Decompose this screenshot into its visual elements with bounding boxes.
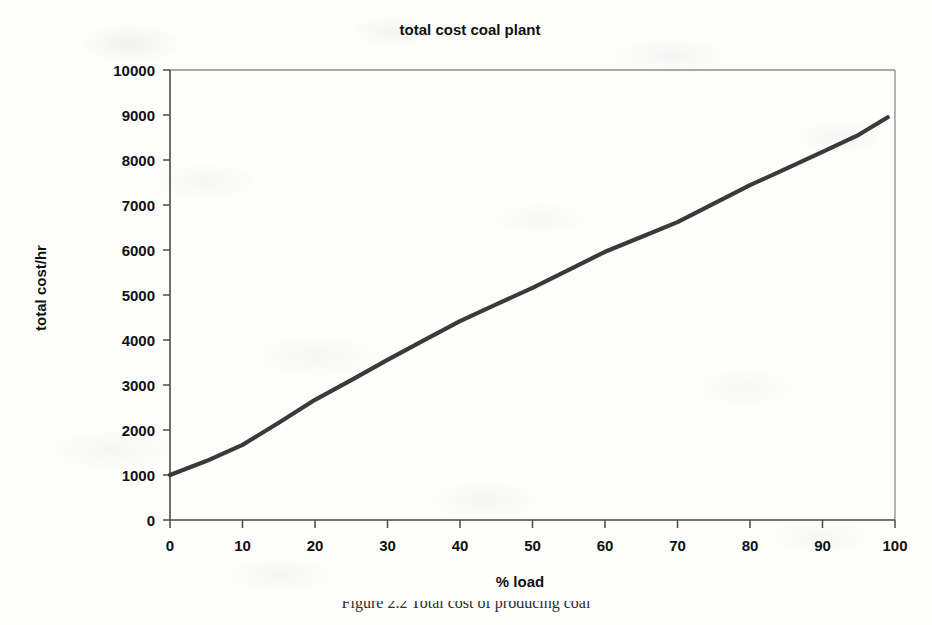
x-axis-ticks bbox=[170, 520, 895, 528]
figure-caption-clip: Figure 2.2 Total cost of producing coal bbox=[0, 601, 932, 625]
y-axis-tick-labels: 0 1000 2000 3000 4000 5000 6000 7000 800… bbox=[113, 62, 155, 529]
x-tick-label: 50 bbox=[524, 537, 541, 554]
x-axis-tick-labels: 0 10 20 30 40 50 60 70 80 90 100 bbox=[166, 537, 908, 554]
x-tick-label: 90 bbox=[814, 537, 831, 554]
chart-title: total cost coal plant bbox=[400, 21, 541, 38]
x-tick-label: 30 bbox=[379, 537, 396, 554]
x-tick-label: 100 bbox=[882, 537, 907, 554]
x-tick-label: 0 bbox=[166, 537, 174, 554]
y-tick-label: 1000 bbox=[122, 467, 155, 484]
y-tick-label: 5000 bbox=[122, 287, 155, 304]
y-tick-label: 0 bbox=[147, 512, 155, 529]
y-tick-label: 8000 bbox=[122, 152, 155, 169]
x-tick-label: 70 bbox=[669, 537, 686, 554]
line-chart: total cost coal plant 0 1000 2000 bbox=[0, 0, 932, 625]
x-tick-label: 40 bbox=[452, 537, 469, 554]
figure-page: total cost coal plant 0 1000 2000 bbox=[0, 0, 932, 625]
plot-frame bbox=[170, 70, 895, 520]
y-axis-ticks bbox=[163, 70, 170, 520]
x-tick-label: 10 bbox=[234, 537, 251, 554]
y-axis-title: total cost/hr bbox=[32, 245, 49, 331]
x-tick-label: 60 bbox=[597, 537, 614, 554]
y-tick-label: 9000 bbox=[122, 107, 155, 124]
x-tick-label: 20 bbox=[307, 537, 324, 554]
y-tick-label: 10000 bbox=[113, 62, 155, 79]
y-tick-label: 3000 bbox=[122, 377, 155, 394]
y-tick-label: 6000 bbox=[122, 242, 155, 259]
x-axis-title: % load bbox=[496, 573, 544, 590]
x-tick-label: 80 bbox=[742, 537, 759, 554]
series-line-total-cost bbox=[170, 117, 888, 475]
y-tick-label: 7000 bbox=[122, 197, 155, 214]
y-tick-label: 2000 bbox=[122, 422, 155, 439]
figure-caption: Figure 2.2 Total cost of producing coal bbox=[0, 601, 932, 612]
y-tick-label: 4000 bbox=[122, 332, 155, 349]
